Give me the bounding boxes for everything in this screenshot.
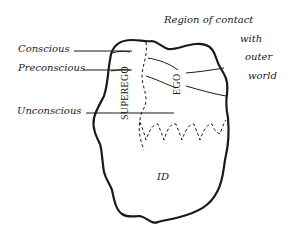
outer-label: outer [245,52,272,62]
superego-label: SUPEREGO [120,66,130,120]
ego-label: EGO [172,74,182,95]
psyche-diagram: Conscious Preconscious Unconscious SUPER… [0,0,288,234]
id-ego-boundary [140,120,226,140]
preconscious-label: Preconscious [18,63,85,73]
id-label: ID [157,172,169,182]
world-label: world [248,71,277,81]
with-label: with [240,34,262,44]
region-of-contact-label: Region of contact [164,15,253,25]
psyche-outline [93,40,228,223]
superego-boundary [139,42,146,150]
unconscious-label: Unconscious [17,106,81,116]
conscious-label: Conscious [18,44,70,54]
